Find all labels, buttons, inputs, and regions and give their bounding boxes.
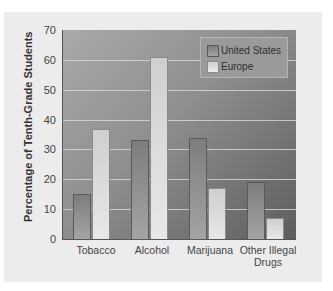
bar-europe: [92, 129, 110, 239]
legend-swatch-europe: [207, 61, 219, 73]
bar-us: [247, 182, 265, 239]
bar-europe: [208, 188, 226, 239]
x-tick-label: Marijuana: [180, 244, 240, 256]
bar-us: [73, 194, 91, 239]
bar-us: [189, 138, 207, 240]
y-tick-label: 40: [36, 114, 56, 126]
bar-europe: [150, 57, 168, 239]
x-tick-label: Other Illegal Drugs: [238, 244, 298, 268]
gridline: [63, 120, 296, 121]
x-tick-label: Tobacco: [66, 244, 126, 256]
legend-swatch-us: [207, 45, 219, 57]
bar-us: [131, 140, 149, 239]
x-tick-label: Alcohol: [122, 244, 182, 256]
y-tick-label: 60: [36, 54, 56, 66]
y-tick-label: 50: [36, 84, 56, 96]
legend-label-us: United States: [221, 45, 281, 57]
y-tick-label: 70: [36, 24, 56, 36]
legend-label-europe: Europe: [221, 61, 253, 73]
plot-area: United States Europe: [62, 30, 296, 240]
y-axis-label: Percentage of Tenth-Grade Students: [22, 42, 34, 222]
y-tick-label: 0: [36, 233, 56, 245]
bar-europe: [266, 218, 284, 239]
y-tick-label: 20: [36, 173, 56, 185]
legend: United States Europe: [200, 37, 288, 78]
y-tick-label: 30: [36, 143, 56, 155]
y-tick-label: 10: [36, 203, 56, 215]
gridline: [63, 90, 296, 91]
